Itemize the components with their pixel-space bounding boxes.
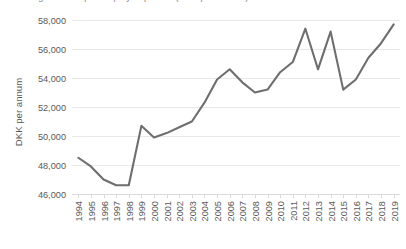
y-axis-tick-label: 52,000 — [38, 103, 66, 113]
x-axis-tick-label: 1997 — [112, 201, 122, 221]
x-axis-tick-label: 2011 — [289, 201, 299, 221]
x-axis-tick-label: 2017 — [364, 201, 374, 221]
x-axis-tick-label: 2005 — [213, 201, 223, 221]
line-chart: 46,00048,00050,00052,00054,00056,00058,0… — [0, 0, 406, 249]
x-axis-tick-label: 2014 — [327, 201, 337, 221]
x-axis-tick-label: 1996 — [100, 201, 110, 221]
x-axis-tick-label: 2015 — [339, 201, 349, 221]
x-axis-tick-label: 2007 — [238, 201, 248, 221]
x-axis-tick-label: 2012 — [301, 201, 311, 221]
x-axis-tick-label: 2003 — [188, 201, 198, 221]
x-axis-tick-label: 2008 — [251, 201, 261, 221]
x-axis-tick-label: 2018 — [377, 201, 387, 221]
x-axis-tick-label: 2019 — [390, 201, 400, 221]
x-axis-tick-label: 2006 — [226, 201, 236, 221]
x-axis-tick-label: 2000 — [150, 201, 160, 221]
x-axis-tick-labels: 1994199519961997199819992000200120022003… — [74, 201, 400, 221]
y-axis-title: DKK per annum — [13, 78, 24, 146]
x-axis-tick-label: 1995 — [87, 201, 97, 221]
x-axis-tick-label: 2013 — [314, 201, 324, 221]
y-axis-tick-label: 46,000 — [38, 190, 66, 200]
data-series-group — [78, 24, 393, 185]
x-axis-tick-label: 1994 — [74, 201, 84, 221]
chart-container: Average income per employed person (DKK … — [0, 0, 406, 249]
x-axis-tick-label: 1999 — [137, 201, 147, 221]
x-axis-tick-label: 2016 — [352, 201, 362, 221]
x-axis-tick-label: 2010 — [276, 201, 286, 221]
y-axis-title-text: DKK per annum — [13, 78, 24, 146]
y-axis-tick-label: 50,000 — [38, 132, 66, 142]
y-axis-tick-label: 56,000 — [38, 45, 66, 55]
x-axis-tick-label: 2004 — [200, 201, 210, 221]
y-axis-tick-label: 58,000 — [38, 16, 66, 26]
gridlines — [72, 21, 400, 195]
data-line-dkk-per-annum — [78, 24, 393, 185]
x-axis-tick-label: 2002 — [175, 201, 185, 221]
y-axis-tick-labels: 46,00048,00050,00052,00054,00056,00058,0… — [38, 16, 66, 200]
y-axis-tick-label: 54,000 — [38, 74, 66, 84]
x-axis-tick-label: 1998 — [125, 201, 135, 221]
y-axis-tick-label: 48,000 — [38, 161, 66, 171]
x-axis-tick-label: 2001 — [163, 201, 173, 221]
x-axis-tick-label: 2009 — [264, 201, 274, 221]
